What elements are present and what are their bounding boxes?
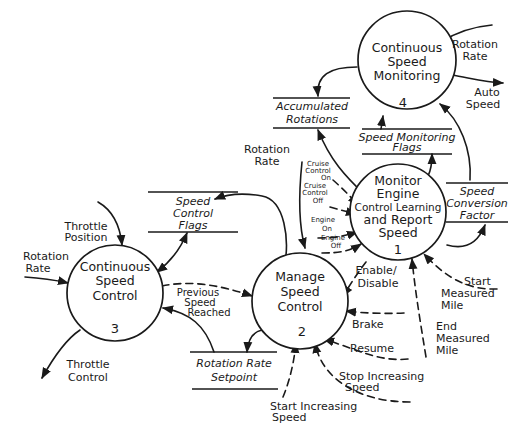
process-number: 2 bbox=[298, 324, 306, 339]
store-label: Flags bbox=[179, 219, 208, 232]
flow-4-to-accumulated-arrow bbox=[318, 67, 357, 96]
flow-label-cruise-off: Control bbox=[302, 189, 327, 197]
flow-label-brake: Brake bbox=[352, 318, 384, 331]
flow-label-rotation-rate-3: Rate bbox=[25, 262, 50, 275]
flow-label-end-measured-mile: Mile bbox=[436, 344, 459, 357]
store-label: Accumulated bbox=[275, 100, 349, 113]
flow-engine-off-arrow bbox=[322, 244, 361, 253]
flow-end-measured-arrow bbox=[412, 259, 426, 357]
process-1-monitor-engine: Monitor Engine Control Learning and Repo… bbox=[350, 164, 446, 260]
flow-label-rotation-rate-2: Rate bbox=[254, 155, 279, 168]
flow-label-stop-increasing-speed: Speed bbox=[345, 381, 379, 394]
flow-start-increasing-arrow bbox=[283, 343, 296, 397]
process-label: Speed bbox=[387, 54, 426, 69]
process-label: Speed bbox=[378, 225, 417, 240]
flow-label-auto-speed: Speed bbox=[466, 98, 500, 111]
flow-label-throttle-control: Throttle bbox=[65, 358, 109, 371]
store-rotation-rate-setpoint: Rotation Rate Setpoint bbox=[190, 352, 278, 389]
store-label: Rotation Rate bbox=[196, 357, 272, 370]
store-speed-monitoring-flags: Speed Monitoring Flags bbox=[359, 129, 456, 154]
store-accumulated-rotations: Accumulated Rotations bbox=[273, 98, 350, 128]
flow-label-throttle-position: Position bbox=[65, 231, 108, 244]
process-number: 1 bbox=[394, 242, 402, 257]
process-label: Monitoring bbox=[374, 68, 441, 83]
store-label: Setpoint bbox=[211, 371, 258, 384]
flow-label-enable-disable: Disable bbox=[358, 277, 399, 290]
flow-label-resume: Resume bbox=[350, 342, 394, 355]
store-speed-control-flags: Speed Control Flags bbox=[148, 192, 238, 232]
process-label: Speed bbox=[280, 284, 319, 299]
process-label: Control bbox=[277, 299, 322, 314]
process-number: 4 bbox=[399, 95, 407, 110]
process-label: Engine bbox=[377, 186, 420, 201]
process-label: Control bbox=[92, 288, 137, 303]
process-label: Continuous bbox=[80, 259, 151, 274]
store-speed-conversion-factor: Speed Conversion Factor bbox=[446, 183, 508, 222]
flow-label-engine-off: Engine bbox=[321, 234, 345, 242]
flow-speedctlflags-3-arrow bbox=[157, 233, 187, 272]
process-label: Manage bbox=[275, 269, 325, 284]
flow-1-to-speedconv-arrow bbox=[447, 225, 485, 247]
process-4-continuous-speed-monitoring: Continuous Speed Monitoring 4 bbox=[358, 11, 456, 110]
store-label: Rotations bbox=[286, 113, 338, 126]
flow-label-cruise-off: Off bbox=[313, 197, 324, 205]
flow-label-previous-speed-reached: Reached bbox=[187, 307, 230, 318]
flow-rotation-rate-3-arrow bbox=[25, 277, 68, 283]
flow-label-cruise-on: On bbox=[321, 174, 331, 182]
flow-label-engine-on: On bbox=[322, 225, 332, 233]
store-label: Flags bbox=[393, 141, 422, 154]
flow-label-start-increasing-speed: Speed bbox=[272, 411, 306, 424]
flow-label-enable-disable: Enable/ bbox=[355, 264, 396, 277]
flow-brake-arrow bbox=[346, 311, 404, 313]
flow-speedmonflags-to-4-arrow bbox=[381, 116, 383, 129]
process-2-manage-speed-control: Manage Speed Control 2 bbox=[252, 253, 348, 349]
flow-1-to-speedmonflags-arrow bbox=[428, 154, 432, 176]
process-number: 3 bbox=[111, 321, 119, 336]
process-3-continuous-speed-control: Continuous Speed Control 3 bbox=[67, 245, 163, 341]
flow-label-start-measured-mile: Mile bbox=[441, 299, 464, 312]
process-label: Speed bbox=[95, 273, 134, 288]
data-flow-diagram: Accumulated Rotations Speed Monitoring F… bbox=[0, 0, 525, 442]
flow-auto-speed-arrow bbox=[452, 75, 503, 83]
flow-label-engine-off: Off bbox=[331, 242, 342, 250]
store-label: Factor bbox=[460, 209, 496, 222]
process-label: Continuous bbox=[372, 40, 443, 55]
flow-label-engine-on: Engine bbox=[311, 216, 335, 224]
flow-2-to-setpoint-arrow bbox=[247, 330, 262, 352]
flow-rotation-rate-2-arrow bbox=[300, 162, 305, 248]
flow-2-to-speedctlflags-arrow bbox=[215, 194, 286, 268]
flow-label-rotation-rate-4: Rate bbox=[462, 50, 487, 63]
flow-label-throttle-control: Control bbox=[68, 371, 108, 384]
